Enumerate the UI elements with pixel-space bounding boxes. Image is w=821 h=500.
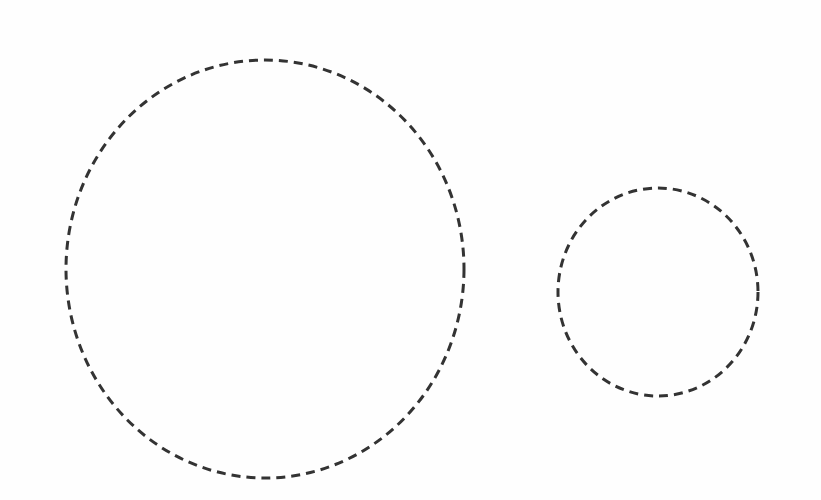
small-dashed-circle bbox=[558, 188, 758, 396]
diagram-canvas bbox=[0, 0, 821, 500]
large-dashed-circle bbox=[66, 60, 464, 478]
diagram-svg bbox=[0, 0, 821, 500]
